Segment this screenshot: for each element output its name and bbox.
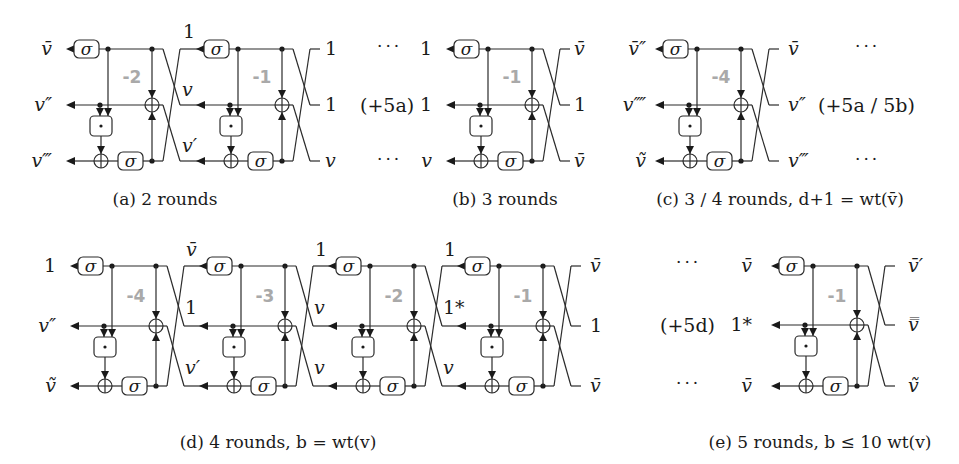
panel-caption: (d) 4 rounds, b = wt(v) <box>180 432 377 452</box>
wire-label-mid: 1 <box>444 238 456 260</box>
arrow-left-icon <box>446 157 455 165</box>
arrow-left-icon <box>655 101 664 109</box>
wire-cross <box>296 266 313 386</box>
arrow-down-icon <box>476 108 484 116</box>
wire-label-right: ṽ <box>908 374 919 396</box>
round-label: -4 <box>712 67 731 87</box>
arrow-left-icon <box>771 382 780 390</box>
wire-label-mid: v′ <box>182 134 198 156</box>
arrow-left-icon <box>446 101 455 109</box>
arrow-up-icon <box>737 112 745 120</box>
wire-cross <box>163 49 180 105</box>
arrow-down-icon <box>802 371 810 379</box>
round-label: -2 <box>385 286 404 306</box>
wire-cross <box>752 49 769 105</box>
and-dot-icon <box>361 345 364 348</box>
wire-label-left: ṽ <box>45 374 56 396</box>
wire-cross <box>752 105 769 161</box>
arrow-up-icon <box>152 333 160 341</box>
and-dot-icon <box>490 345 493 348</box>
arrow-down-icon <box>359 371 367 379</box>
wire-cross <box>543 49 560 161</box>
wire-label-mid: v <box>182 78 193 100</box>
panel-c: σσ-4v̄″v⁗ṽv̄v″v‴(+5a / 5b)······(c) 3 / … <box>623 36 915 209</box>
wire-label-right: v̄′ <box>908 254 924 276</box>
sigma-label: σ <box>516 376 528 396</box>
arrow-down-icon <box>230 371 238 379</box>
arrow-left-icon <box>70 382 79 390</box>
wire-cross <box>868 325 885 386</box>
wire-cross <box>554 266 571 326</box>
panel-caption: (e) 5 rounds, b ≤ 10 wt(v) <box>709 432 932 452</box>
arrow-down-icon <box>366 329 374 337</box>
wire-cross <box>167 266 184 326</box>
ellipsis: ··· <box>377 149 402 169</box>
sigma-label: σ <box>472 256 484 276</box>
wire-label-mid: 1 <box>185 296 197 318</box>
wire-cross <box>425 266 442 386</box>
wire-label-left: v″ <box>38 314 56 336</box>
wire-cross <box>167 326 184 386</box>
ellipsis: ··· <box>676 252 701 272</box>
arrow-down-icon <box>97 146 105 154</box>
round-label: -4 <box>127 286 146 306</box>
wire-cross <box>163 105 180 161</box>
arrow-down-icon <box>539 311 547 319</box>
and-dot-icon <box>229 124 232 127</box>
wire-label-right: 1 <box>325 93 337 115</box>
round-d-2: σσ-3 <box>199 256 332 396</box>
wire-label-left: v̄ <box>41 37 52 59</box>
arrow-down-icon <box>487 329 495 337</box>
round-b-1: σσ-1 <box>446 39 570 171</box>
arrow-down-icon <box>495 329 503 337</box>
wire-label-right: 1 <box>325 37 337 59</box>
arrow-down-icon <box>488 371 496 379</box>
arrow-down-icon <box>528 90 536 98</box>
arrow-up-icon <box>853 332 861 340</box>
wire-label-left: 1 <box>420 93 432 115</box>
arrow-left-icon <box>655 157 664 165</box>
arrow-down-icon <box>96 108 104 116</box>
wire-label-right: v̄ <box>574 149 585 171</box>
and-dot-icon <box>804 344 807 347</box>
sigma-label: σ <box>387 376 399 396</box>
wire-cross <box>543 49 560 105</box>
arrow-left-icon <box>199 382 208 390</box>
round-label: -1 <box>253 67 272 87</box>
round-c-1: σσ-4 <box>655 39 779 171</box>
continuation-note: (+5a) <box>360 94 414 116</box>
sigma-label: σ <box>670 39 682 59</box>
arrow-up-icon <box>539 333 547 341</box>
sigma-label: σ <box>505 151 517 171</box>
wire-label-right: v <box>325 149 336 171</box>
sigma-label: σ <box>214 256 226 276</box>
wire-label-right: v″ <box>788 93 806 115</box>
wire-label-right: 1 <box>590 314 602 336</box>
arrow-down-icon <box>227 146 235 154</box>
round-label: -3 <box>256 286 275 306</box>
and-dot-icon <box>688 124 691 127</box>
wire-cross <box>163 49 180 161</box>
wire-cross <box>554 326 571 386</box>
wire-label-right: v̄ <box>788 37 799 59</box>
wire-cross <box>293 105 310 161</box>
sigma-label: σ <box>786 256 798 276</box>
wire-cross <box>167 266 184 386</box>
wire-cross <box>868 266 885 325</box>
wire-cross <box>752 49 769 161</box>
arrow-down-icon <box>737 90 745 98</box>
round-d-4: σσ-1 <box>457 256 581 396</box>
wire-label-right: v̿ <box>908 313 919 335</box>
wire-cross <box>543 105 560 161</box>
wire-label-mid: v <box>314 296 325 318</box>
arrow-up-icon <box>281 333 289 341</box>
wire-cross <box>293 49 310 105</box>
and-dot-icon <box>99 124 102 127</box>
wire-cross <box>296 326 313 386</box>
arrow-down-icon <box>281 311 289 319</box>
panel-a: σσ-2σσ-1v̄v″v‴11v1vv′(a) 2 rounds <box>31 20 337 209</box>
wire-label-left: v̄ <box>741 374 752 396</box>
arrow-left-icon <box>66 157 75 165</box>
arrow-left-icon <box>771 321 780 329</box>
continuation-note: (+5d) <box>660 314 715 336</box>
